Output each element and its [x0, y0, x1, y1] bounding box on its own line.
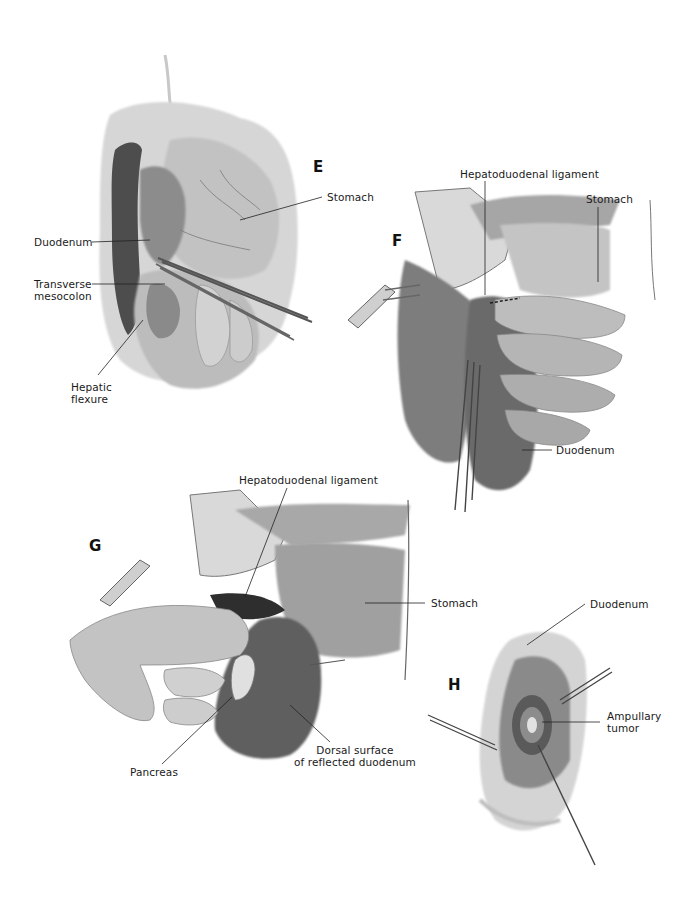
surgical-illustration: E F G H Stomach Duodenum Transverse meso… — [0, 0, 695, 919]
label-e-transverse-mesocolon: Transverse mesocolon — [34, 278, 92, 302]
panel-e-artwork — [99, 55, 312, 389]
label-e-duodenum: Duodenum — [34, 236, 93, 248]
label-e-hepatic-flexure: Hepatic flexure — [71, 381, 112, 405]
label-f-duodenum: Duodenum — [556, 444, 615, 456]
panel-letter-e: E — [313, 158, 323, 176]
panel-h-artwork — [428, 632, 612, 865]
panel-letter-f: F — [392, 232, 402, 250]
panel-letter-g: G — [89, 537, 101, 555]
panel-g-artwork — [70, 490, 410, 759]
label-e-stomach: Stomach — [327, 191, 374, 203]
label-g-stomach: Stomach — [431, 597, 478, 609]
label-h-duodenum: Duodenum — [590, 598, 649, 610]
panel-letter-h: H — [448, 676, 461, 694]
label-h-ampullary-tumor: Ampullary tumor — [607, 710, 661, 734]
label-g-hepatoduodenal-ligament: Hepatoduodenal ligament — [239, 474, 378, 486]
label-g-dorsal-surface: Dorsal surface of reflected duodenum — [294, 744, 416, 768]
illustration-artwork — [0, 0, 695, 919]
label-f-hepatoduodenal-ligament: Hepatoduodenal ligament — [460, 168, 599, 180]
label-g-pancreas: Pancreas — [130, 766, 178, 778]
label-f-stomach: Stomach — [586, 193, 633, 205]
